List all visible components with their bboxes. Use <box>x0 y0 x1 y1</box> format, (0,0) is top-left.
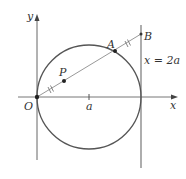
diagram: y x O P A B a x = 2a <box>0 0 186 179</box>
center-label: a <box>86 100 93 113</box>
point-o <box>35 95 39 99</box>
point-p-label: P <box>58 66 67 79</box>
point-p <box>62 79 66 83</box>
y-axis <box>35 14 40 160</box>
point-b-label: B <box>143 30 152 43</box>
point-a-label: A <box>106 38 115 51</box>
y-axis-label: y <box>26 10 34 23</box>
line-equation-label: x = 2a <box>144 54 180 67</box>
line-ob <box>37 34 141 97</box>
origin-label: O <box>24 100 33 113</box>
x-axis <box>18 95 178 100</box>
x-axis-label: x <box>170 99 177 112</box>
point-b <box>140 33 143 36</box>
